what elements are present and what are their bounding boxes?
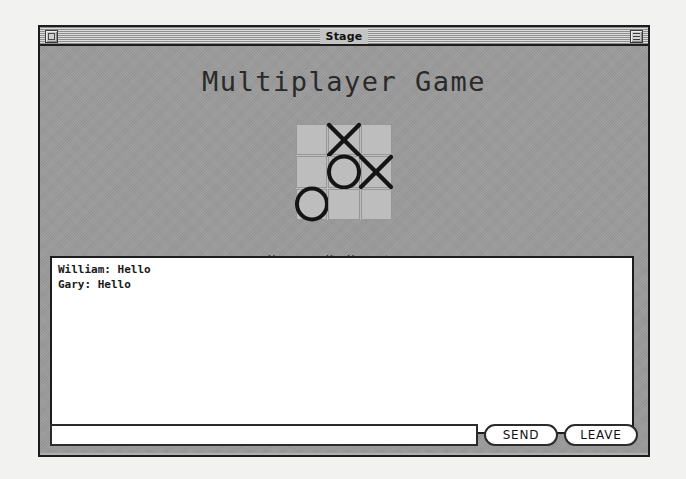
board-cell[interactable] [361, 156, 392, 187]
window-title-bar[interactable]: Stage [40, 27, 648, 46]
board-cell[interactable] [296, 156, 327, 187]
leave-button[interactable]: LEAVE [564, 424, 638, 446]
send-button[interactable]: SEND [484, 424, 558, 446]
tic-tac-toe-board[interactable] [296, 124, 392, 220]
screenshot-canvas: Stage Multiplayer Game [0, 0, 686, 479]
stage-window: Stage Multiplayer Game [38, 25, 650, 457]
x-mark-icon [356, 152, 396, 192]
window-content: Multiplayer Game You are X. Your turn. W… [40, 46, 648, 453]
board-cell[interactable] [361, 189, 392, 220]
board-cell[interactable] [328, 124, 359, 155]
chat-message: William: Hello [58, 262, 626, 277]
chat-input-bar: SEND LEAVE [50, 424, 638, 446]
board-cell[interactable] [328, 156, 359, 187]
collapse-box-inner [633, 33, 640, 40]
chat-message: Gary: Hello [58, 277, 626, 292]
chat-log[interactable]: William: HelloGary: Hello [50, 256, 634, 434]
x-mark-icon [324, 120, 364, 160]
game-board-area [40, 124, 648, 244]
close-box-inner [48, 33, 55, 40]
board-cell[interactable] [328, 189, 359, 220]
window-title: Stage [320, 29, 369, 44]
close-box-icon[interactable] [45, 30, 58, 43]
o-mark-icon [324, 152, 364, 192]
o-mark-icon [292, 184, 332, 224]
collapse-box-icon[interactable] [630, 30, 643, 43]
window-title-container: Stage [40, 27, 648, 46]
page-title: Multiplayer Game [40, 66, 648, 97]
board-cell[interactable] [361, 124, 392, 155]
board-cell[interactable] [296, 124, 327, 155]
message-input[interactable] [50, 424, 478, 446]
board-cell[interactable] [296, 189, 327, 220]
